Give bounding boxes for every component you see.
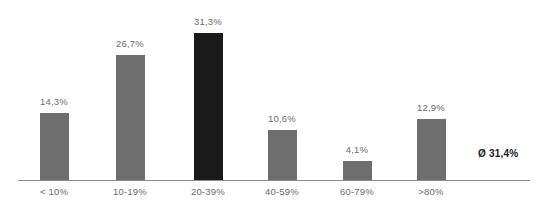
plot-area: 14,3%26,7%31,3%10,6%4,1%12,9% bbox=[0, 0, 546, 180]
bar[interactable] bbox=[116, 55, 145, 180]
x-axis-labels: < 10%10-19%20-39%40-59%60-79%>80% bbox=[0, 186, 546, 208]
bar-value-label: 26,7% bbox=[116, 38, 144, 49]
bar-value-label: 14,3% bbox=[40, 96, 68, 107]
category-label: < 10% bbox=[40, 186, 68, 197]
category-label: 20-39% bbox=[191, 186, 225, 197]
bar[interactable] bbox=[268, 130, 297, 180]
x-axis-line bbox=[18, 180, 530, 181]
bar-group: 31,3% bbox=[194, 33, 223, 180]
bar-group: 10,6% bbox=[268, 130, 297, 180]
bar[interactable] bbox=[40, 113, 69, 180]
bar[interactable] bbox=[417, 119, 446, 180]
category-label: >80% bbox=[418, 186, 443, 197]
bar-group: 4,1% bbox=[343, 161, 372, 180]
category-label: 60-79% bbox=[340, 186, 374, 197]
bar-value-label: 10,6% bbox=[268, 113, 296, 124]
bar[interactable] bbox=[343, 161, 372, 180]
bar-group: 14,3% bbox=[40, 113, 69, 180]
bar-value-label: 31,3% bbox=[194, 16, 222, 27]
bar-value-label: 12,9% bbox=[417, 102, 445, 113]
category-label: 10-19% bbox=[113, 186, 147, 197]
bar-group: 12,9% bbox=[417, 119, 446, 180]
average-annotation: Ø 31,4% bbox=[478, 148, 518, 159]
bar-group: 26,7% bbox=[116, 55, 145, 180]
category-label: 40-59% bbox=[265, 186, 299, 197]
bar[interactable] bbox=[194, 33, 223, 180]
bar-value-label: 4,1% bbox=[346, 144, 368, 155]
bar-chart: 14,3%26,7%31,3%10,6%4,1%12,9% < 10%10-19… bbox=[0, 0, 546, 208]
